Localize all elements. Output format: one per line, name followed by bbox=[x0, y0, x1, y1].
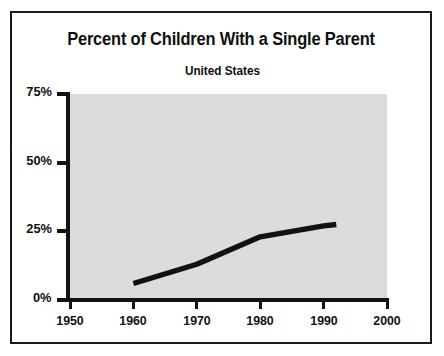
single-parent-trend-line bbox=[133, 224, 336, 283]
chart-figure: Percent of Children With a Single Parent… bbox=[10, 11, 432, 344]
series-layer bbox=[12, 13, 430, 342]
